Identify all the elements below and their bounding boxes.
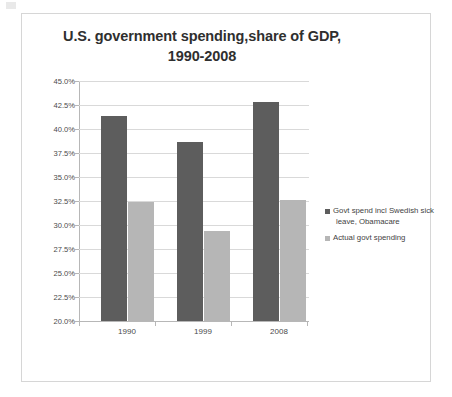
legend-label-line: Actual govt spending (333, 233, 405, 244)
bar-1990-series-2[interactable] (128, 202, 154, 321)
y-axis-tick-mark (75, 297, 79, 298)
legend-swatch-icon-2 (325, 236, 330, 241)
legend-label-1: Govt spend incl Swedish sickleave, Obama… (333, 206, 434, 227)
y-axis-tick-label: 30.0% (53, 221, 75, 230)
y-axis-tick-label: 27.5% (53, 245, 75, 254)
legend-label-2: Actual govt spending (333, 233, 405, 244)
y-axis-tick-mark (75, 201, 79, 202)
chart-legend: Govt spend incl Swedish sickleave, Obama… (325, 206, 447, 250)
y-axis-tick-label: 35.0% (53, 173, 75, 182)
x-axis-tick-mark (307, 322, 308, 326)
y-axis-tick-mark (75, 153, 79, 154)
y-axis-tick-label: 37.5% (53, 149, 75, 158)
y-axis-tick-label: 32.5% (53, 197, 75, 206)
y-axis-tick-label: 45.0% (53, 77, 75, 86)
y-axis-tick-mark (75, 81, 79, 82)
bar-1990-series-1[interactable] (101, 116, 127, 321)
plot-area (79, 81, 309, 322)
x-axis-tick-mark (155, 322, 156, 326)
legend-item-1[interactable]: Govt spend incl Swedish sickleave, Obama… (325, 206, 447, 227)
y-axis-tick-label: 22.5% (53, 293, 75, 302)
chart-title-line-1: U.S. government spending,share of GDP, (52, 26, 352, 46)
y-axis-tick-mark (75, 273, 79, 274)
x-axis-line (79, 321, 309, 322)
legend-item-2[interactable]: Actual govt spending (325, 233, 447, 244)
y-axis-tick-label: 25.0% (53, 269, 75, 278)
bar-2008-series-1[interactable] (253, 102, 279, 321)
gridline (79, 81, 309, 82)
x-axis-tick-label-1999: 1999 (173, 327, 233, 336)
y-axis-tick-label: 20.0% (53, 317, 75, 326)
y-axis-tick-mark (75, 177, 79, 178)
bar-1999-series-1[interactable] (177, 142, 203, 321)
legend-swatch-icon-1 (325, 209, 330, 214)
y-axis-tick-mark (75, 129, 79, 130)
y-axis-tick-label: 40.0% (53, 125, 75, 134)
x-axis-tick-label-2008: 2008 (249, 327, 309, 336)
legend-label-line: leave, Obamacare (333, 217, 434, 228)
bar-2008-series-2[interactable] (280, 200, 306, 321)
scan-artifact (6, 2, 16, 9)
y-axis-tick-mark (75, 105, 79, 106)
bar-1999-series-2[interactable] (204, 231, 230, 321)
chart-container: U.S. government spending,share of GDP, 1… (21, 13, 431, 382)
chart-title: U.S. government spending,share of GDP, 1… (52, 26, 352, 66)
x-axis-tick-mark (79, 322, 80, 326)
y-axis-tick-labels: 45.0%42.5%40.0%37.5%35.0%32.5%30.0%27.5%… (44, 81, 75, 322)
y-axis-tick-mark (75, 225, 79, 226)
legend-label-line: Govt spend incl Swedish sick (333, 206, 434, 217)
x-axis-tick-mark (231, 322, 232, 326)
y-axis-tick-mark (75, 249, 79, 250)
y-axis-tick-label: 42.5% (53, 101, 75, 110)
chart-title-line-2: 1990-2008 (52, 46, 352, 66)
x-axis-tick-label-1990: 1990 (97, 327, 157, 336)
